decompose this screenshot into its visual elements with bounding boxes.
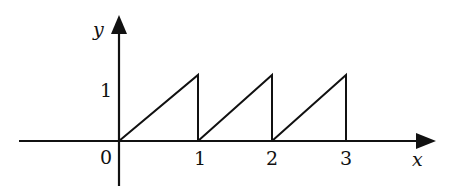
sawtooth-wave <box>119 75 346 141</box>
y-axis-label: y <box>92 18 104 40</box>
x-axis-arrow-icon <box>416 133 436 149</box>
x-tick-2: 2 <box>266 147 278 169</box>
tooth-3 <box>272 75 346 141</box>
y-tick-1: 1 <box>100 79 112 101</box>
x-tick-3: 3 <box>340 147 352 169</box>
tooth-1 <box>119 75 198 141</box>
origin-label: 0 <box>100 146 112 168</box>
x-tick-1: 1 <box>194 147 206 169</box>
x-axis-label: x <box>412 148 423 170</box>
sawtooth-graph: y 1 0 1 2 3 x <box>0 0 450 186</box>
y-axis-arrow-icon <box>111 15 127 34</box>
tooth-2 <box>198 75 272 141</box>
